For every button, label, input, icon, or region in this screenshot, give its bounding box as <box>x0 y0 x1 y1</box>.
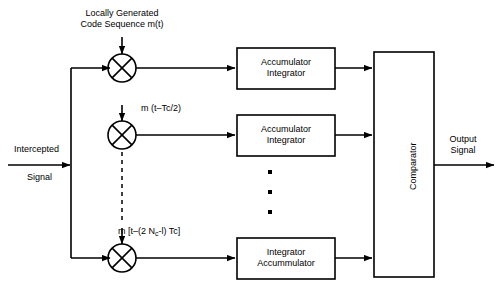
diagram-canvas: Locally Generated Code Sequence m(t) Int… <box>0 0 501 300</box>
ellipsis-dot-3 <box>268 210 272 214</box>
local-code-caption: Locally Generated Code Sequence m(t) <box>62 8 182 30</box>
vertical-ellipsis <box>268 170 272 214</box>
mixer-2-tap-label: m (t–Tc/2) <box>141 103 181 114</box>
local-code-line-1: Locally Generated <box>62 8 182 19</box>
mixer-3-tap-label: m [t–(2 Nc-l) Tc] <box>118 226 180 239</box>
input-label-line-1: Intercepted <box>14 144 59 155</box>
output-label-line-2: Signal <box>440 145 486 156</box>
output-label: Output Signal <box>440 134 486 156</box>
output-label-line-1: Output <box>440 134 486 145</box>
mixer-3-tap-suffix: -l) Tc] <box>159 226 181 236</box>
acc-int-block-2-line-2: Integrator <box>237 135 335 146</box>
mixer-3-tap-prefix: m [t–(2 N <box>118 226 155 236</box>
comparator-block <box>374 52 434 277</box>
ellipsis-dot-1 <box>268 170 272 174</box>
local-code-line-2: Code Sequence m(t) <box>62 19 182 30</box>
acc-int-block-2-line-1: Accumulator <box>237 124 335 135</box>
int-acc-block-3-line-1: Integrator <box>237 247 335 258</box>
acc-int-block-2-label: Accumulator Integrator <box>237 124 335 146</box>
acc-int-block-1-line-2: Integrator <box>237 68 335 79</box>
acc-int-block-1-line-1: Accumulator <box>237 57 335 68</box>
ellipsis-dot-2 <box>268 190 272 194</box>
input-label-line-2: Signal <box>27 172 52 183</box>
int-acc-block-3-line-2: Accummulator <box>237 258 335 269</box>
acc-int-block-1-label: Accumulator Integrator <box>237 57 335 79</box>
comparator-label: Comparator <box>408 142 418 190</box>
int-acc-block-3-label: Integrator Accummulator <box>237 247 335 269</box>
